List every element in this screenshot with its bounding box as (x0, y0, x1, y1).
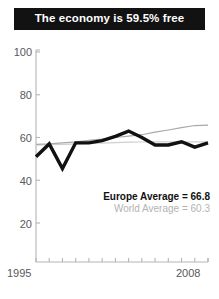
legend-europe-average: Europe Average = 66.8 (103, 191, 210, 202)
chart-plot-area (0, 0, 219, 299)
x-tick-label-start: 1995 (7, 268, 31, 279)
y-axis-ticks (36, 52, 40, 223)
x-axis-ticks (36, 258, 208, 262)
x-tick-label-end: 2008 (176, 268, 200, 279)
chart-series-group (36, 125, 208, 168)
chart-root: The economy is 59.5% free 100 80 60 40 2… (0, 0, 219, 299)
legend-world-average: World Average = 60.3 (114, 203, 210, 214)
